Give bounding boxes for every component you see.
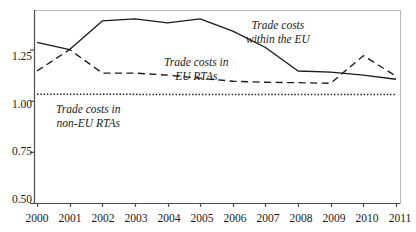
annotation-line: non-EU RTAs [56, 117, 121, 131]
annotation-line: EU RTAs [164, 70, 229, 84]
annotation-line: Trade costs in [164, 56, 229, 70]
y-axis-tick-label: 1.25 [0, 51, 32, 63]
x-axis-tick-label: 2011 [378, 213, 416, 225]
annotation-line: within the EU [246, 33, 310, 47]
y-axis-tick-label: 1.00 [0, 99, 32, 111]
y-axis-tick-label: 0.50 [0, 194, 32, 206]
annotation-within-eu: Trade costs within the EU [246, 19, 310, 46]
annotation-line: Trade costs [246, 19, 310, 33]
annotation-line: Trade costs in [56, 103, 121, 117]
annotation-eu-rtas: Trade costs in EU RTAs [164, 56, 229, 83]
y-axis-tick-label: 0.75 [0, 146, 32, 158]
trade-costs-line-chart: 1.25 1.00 0.75 0.50 2000 2001 2002 2003 … [0, 0, 416, 232]
annotation-non-eu-rtas: Trade costs in non-EU RTAs [56, 103, 121, 130]
